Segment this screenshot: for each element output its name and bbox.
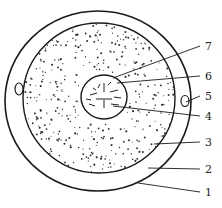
label-numbers: 7654321 [205,40,212,199]
cell-diagram: 7654321 [0,0,222,208]
nucleus [81,75,127,119]
label-6: 6 [205,70,212,83]
label-1: 1 [205,186,212,199]
label-5: 5 [205,90,212,103]
label-2: 2 [205,163,212,176]
polar-body-left [15,83,23,95]
label-3: 3 [205,136,212,149]
label-7: 7 [205,40,212,53]
leader-line-1 [138,183,200,192]
label-4: 4 [205,110,212,123]
